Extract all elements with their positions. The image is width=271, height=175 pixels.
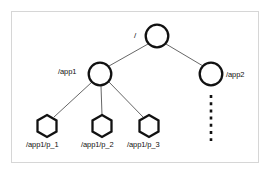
node-label-root: /	[134, 32, 136, 40]
edge-root-app1	[109, 44, 148, 66]
node-app1[interactable]	[89, 63, 112, 86]
node-leaf-p2[interactable]	[93, 115, 112, 137]
node-leaf-p3[interactable]	[140, 115, 159, 137]
node-label-leaf-p3: /app1/p_3	[127, 141, 159, 149]
edge-group	[54, 44, 203, 117]
hexagon-node-group	[38, 115, 159, 137]
node-label-app1: /app1	[58, 68, 76, 76]
tree-diagram: / /app1 /app2 /app1/p_1 /app1/p_2 /app1/…	[0, 0, 271, 175]
node-label-leaf-p1: /app1/p_1	[26, 141, 58, 149]
node-app2[interactable]	[200, 63, 223, 86]
edge-app1-p3	[109, 82, 143, 117]
edge-root-app2	[166, 44, 203, 66]
node-leaf-p1[interactable]	[38, 115, 57, 137]
circle-node-group	[89, 25, 223, 86]
node-label-leaf-p2: /app1/p_2	[81, 141, 113, 149]
edge-app1-p1	[54, 82, 92, 117]
node-label-app2: /app2	[226, 71, 244, 79]
node-root[interactable]	[146, 25, 169, 48]
edge-app1-p2	[101, 86, 102, 115]
